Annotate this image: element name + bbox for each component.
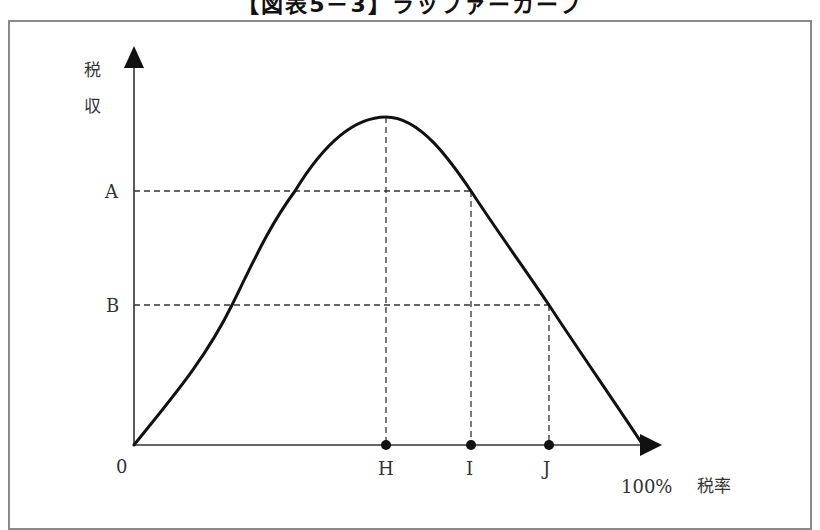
point-h-label: H — [378, 460, 394, 478]
point-i-marker — [466, 440, 476, 450]
y-axis-label-part2: 収 — [84, 98, 101, 115]
axes — [134, 66, 642, 445]
y-axis-label-part1: 税 — [84, 62, 101, 79]
origin-label: 0 — [116, 458, 127, 476]
point-j-marker — [544, 440, 554, 450]
point-h-marker — [381, 440, 391, 450]
x-axis-max-label: 100% — [621, 478, 672, 496]
guide-lines — [134, 117, 549, 445]
x-axis-label: 税率 — [697, 478, 731, 495]
point-j-label: J — [543, 460, 550, 478]
laffer-curve-line — [134, 117, 643, 445]
y-axis-arrow-icon — [124, 46, 144, 68]
level-a-label: A — [105, 183, 118, 201]
point-i-label: I — [466, 460, 473, 478]
level-b-label: B — [106, 297, 119, 315]
